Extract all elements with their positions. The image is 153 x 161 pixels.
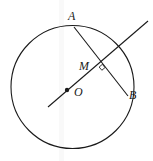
point-label-m: M (79, 60, 89, 72)
figure-canvas (0, 0, 153, 161)
point-label-b: B (129, 89, 136, 101)
point-label-a: A (68, 10, 75, 22)
center-point-dot (65, 88, 69, 92)
geometry-figure: A M O B (0, 0, 153, 161)
circle-outline (11, 26, 134, 149)
point-label-o: O (74, 86, 83, 98)
